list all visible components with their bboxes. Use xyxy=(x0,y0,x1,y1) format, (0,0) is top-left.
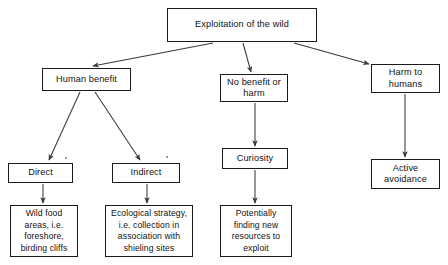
node-exploitation-of-the-wild[interactable]: Exploitation of the wild xyxy=(167,8,317,42)
node-indirect[interactable]: Indirect xyxy=(112,163,180,183)
node-label: Wild food areas, i.e. foreshore, birding… xyxy=(21,208,68,254)
node-label: Ecological strategy, i.e. collection in … xyxy=(111,208,187,254)
node-no-benefit-or-harm[interactable]: No benefit or harm xyxy=(220,74,288,102)
diagram-canvas: Exploitation of the wild Human benefit N… xyxy=(0,0,448,265)
node-direct[interactable]: Direct xyxy=(8,163,73,183)
node-harm-to-humans[interactable]: Harm to humans xyxy=(371,64,440,93)
edge-root-to-harm xyxy=(294,43,369,64)
node-active-avoidance[interactable]: Active avoidance xyxy=(371,159,440,189)
node-label: Direct xyxy=(28,167,53,179)
edge-root-to-human xyxy=(93,43,213,66)
node-label: Active avoidance xyxy=(384,163,427,186)
edge-root-to-nobenefit xyxy=(243,43,251,72)
edge-human-to-direct xyxy=(49,92,80,160)
node-label: Harm to humans xyxy=(389,67,422,90)
node-potentially-finding-new-resources[interactable]: Potentially finding new resources to exp… xyxy=(220,205,292,257)
scan-speck xyxy=(65,157,67,159)
node-label: Potentially finding new resources to exp… xyxy=(232,208,281,254)
node-label: Indirect xyxy=(131,167,162,179)
node-label: No benefit or harm xyxy=(227,77,281,100)
scan-speck xyxy=(166,156,168,158)
node-ecological-strategy[interactable]: Ecological strategy, i.e. collection in … xyxy=(105,205,193,257)
node-label: Human benefit xyxy=(56,74,117,86)
node-wild-food-areas[interactable]: Wild food areas, i.e. foreshore, birding… xyxy=(10,205,78,257)
node-curiosity[interactable]: Curiosity xyxy=(222,148,288,169)
node-label: Curiosity xyxy=(237,153,274,165)
node-label: Exploitation of the wild xyxy=(195,19,289,31)
node-human-benefit[interactable]: Human benefit xyxy=(42,68,131,91)
edge-human-to-indirect xyxy=(95,92,140,160)
